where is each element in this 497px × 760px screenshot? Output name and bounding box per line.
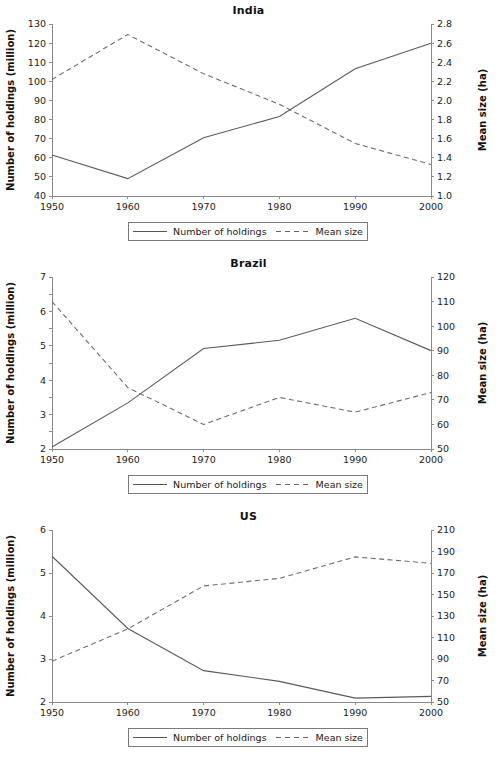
legend-label-holdings: Number of holdings	[173, 479, 267, 490]
y2-axis-tick-label: 110	[437, 296, 455, 307]
y-axis-tick-label: 7	[40, 271, 46, 282]
y2-axis-tick-label: 50	[437, 696, 449, 707]
legend-line-solid-icon	[133, 231, 167, 232]
y-axis-tick-label: 2	[40, 696, 46, 707]
series-line-mean-size	[52, 302, 431, 425]
y2-axis-tick-label: 2.0	[437, 95, 452, 106]
y-axis-tick-label: 6	[40, 524, 46, 535]
series-line-mean-size	[52, 35, 431, 165]
y2-axis-tick-label: 90	[437, 653, 449, 664]
y2-axis-tick-label: 70	[437, 675, 449, 686]
legend-line-dashed-icon	[276, 737, 310, 738]
y-axis-tick-label: 5	[40, 567, 46, 578]
y-axis-title: Number of holdings (million)	[5, 29, 16, 191]
legend-label-holdings: Number of holdings	[173, 732, 267, 743]
legend-line-solid-icon	[133, 484, 167, 485]
y2-axis-tick-label: 210	[437, 524, 455, 535]
y-axis-tick-label: 90	[34, 95, 46, 106]
y2-axis-tick-label: 2.8	[437, 18, 452, 29]
legend-line-dashed-icon	[276, 484, 310, 485]
legend-label-mean-size: Mean size	[316, 732, 363, 743]
legend-line-dashed-icon	[276, 231, 310, 232]
y2-axis-title: Mean size (ha)	[477, 322, 488, 405]
legend-entry-holdings: Number of holdings	[133, 732, 267, 743]
y-axis-tick-label: 70	[34, 133, 46, 144]
chart-title-us: US	[0, 510, 497, 523]
y2-axis-tick-label: 170	[437, 567, 455, 578]
y2-axis-tick-label: 120	[437, 271, 455, 282]
y-axis-tick-label: 40	[34, 190, 46, 201]
y-axis-tick-label: 4	[40, 375, 46, 386]
y-axis-tick-label: 3	[40, 409, 46, 420]
chart-legend-india: Number of holdings Mean size	[128, 222, 368, 241]
legend-label-mean-size: Mean size	[316, 226, 363, 237]
y-axis-tick-label: 3	[40, 653, 46, 664]
y2-axis-tick-label: 190	[437, 546, 455, 557]
y2-axis-tick-label: 130	[437, 610, 455, 621]
y2-axis-tick-label: 80	[437, 370, 449, 381]
y-axis-tick-label: 130	[28, 18, 46, 29]
y-axis-tick-label: 4	[40, 610, 46, 621]
y-axis-tick-label: 5	[40, 340, 46, 351]
y2-axis-tick-label: 110	[437, 632, 455, 643]
y2-axis-tick-label: 90	[437, 345, 449, 356]
legend-label-holdings: Number of holdings	[173, 226, 267, 237]
y-axis-title: Number of holdings (million)	[5, 535, 16, 697]
series-line-holdings	[52, 43, 431, 178]
x-axis-tick-label: 1970	[192, 707, 216, 718]
chart-legend-us: Number of holdings Mean size	[128, 728, 368, 747]
chart-plot-india: 4050607080901001101201301.01.21.41.61.82…	[0, 0, 497, 222]
y-axis-tick-label: 50	[34, 171, 46, 182]
x-axis-tick-label: 1960	[116, 707, 140, 718]
y2-axis-tick-label: 1.6	[437, 133, 452, 144]
x-axis-tick-label: 1970	[192, 201, 216, 212]
x-axis-tick-label: 1960	[116, 201, 140, 212]
legend-entry-mean-size: Mean size	[276, 479, 363, 490]
legend-entry-mean-size: Mean size	[276, 732, 363, 743]
series-line-holdings	[52, 318, 431, 447]
x-axis-tick-label: 1980	[267, 454, 291, 465]
y-axis-tick-label: 80	[34, 114, 46, 125]
y2-axis-tick-label: 2.4	[437, 57, 452, 68]
chart-panel-india: India 4050607080901001101201301.01.21.41…	[0, 0, 497, 253]
legend-label-mean-size: Mean size	[316, 479, 363, 490]
legend-entry-mean-size: Mean size	[276, 226, 363, 237]
chart-title-brazil: Brazil	[0, 257, 497, 270]
chart-plot-us: 2345650709011013015017019021019501960197…	[0, 506, 497, 728]
x-axis-tick-label: 1970	[192, 454, 216, 465]
x-axis-tick-label: 2000	[419, 707, 443, 718]
y-axis-tick-label: 110	[28, 57, 46, 68]
x-axis-tick-label: 1990	[343, 201, 367, 212]
chart-plot-brazil: 2345675060708090100110120195019601970198…	[0, 253, 497, 475]
x-axis-tick-label: 1990	[343, 454, 367, 465]
x-axis-tick-label: 1950	[40, 454, 64, 465]
series-line-holdings	[52, 556, 431, 698]
y-axis-title: Number of holdings (million)	[5, 282, 16, 444]
legend-line-solid-icon	[133, 737, 167, 738]
y2-axis-tick-label: 2.2	[437, 76, 452, 87]
x-axis-tick-label: 1960	[116, 454, 140, 465]
y-axis-tick-label: 6	[40, 306, 46, 317]
chart-title-india: India	[0, 4, 497, 17]
y2-axis-tick-label: 1.2	[437, 171, 452, 182]
y2-axis-tick-label: 1.4	[437, 152, 452, 163]
y2-axis-tick-label: 150	[437, 589, 455, 600]
y-axis-tick-label: 120	[28, 38, 46, 49]
legend-entry-holdings: Number of holdings	[133, 226, 267, 237]
series-line-mean-size	[52, 557, 431, 661]
chart-panel-brazil: Brazil 234567506070809010011012019501960…	[0, 253, 497, 506]
y2-axis-tick-label: 1.0	[437, 190, 452, 201]
y-axis-tick-label: 100	[28, 76, 46, 87]
x-axis-tick-label: 2000	[419, 201, 443, 212]
x-axis-tick-label: 2000	[419, 454, 443, 465]
y2-axis-tick-label: 60	[437, 419, 449, 430]
y2-axis-tick-label: 50	[437, 443, 449, 454]
legend-entry-holdings: Number of holdings	[133, 479, 267, 490]
x-axis-tick-label: 1990	[343, 707, 367, 718]
y2-axis-tick-label: 2.6	[437, 38, 452, 49]
x-axis-tick-label: 1980	[267, 201, 291, 212]
y2-axis-tick-label: 1.8	[437, 114, 452, 125]
figure-page: India 4050607080901001101201301.01.21.41…	[0, 0, 497, 760]
y2-axis-title: Mean size (ha)	[477, 69, 488, 152]
y2-axis-tick-label: 70	[437, 394, 449, 405]
